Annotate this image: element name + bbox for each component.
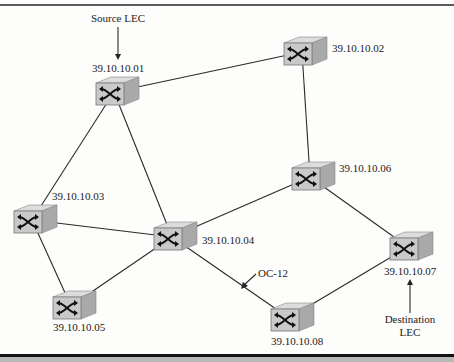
node-address-label: 39.10.10.06 — [339, 162, 392, 174]
node-address-label: 39.10.10.08 — [271, 335, 324, 347]
destination-lec-label-line1: Destination — [385, 313, 436, 325]
node-address-label: 39.10.10.03 — [52, 190, 105, 202]
switch-node-02[interactable]: 39.10.10.02 — [284, 37, 384, 65]
source-arrowhead — [115, 54, 121, 60]
destination-arrowhead — [407, 279, 413, 285]
node-address-label: 39.10.10.01 — [92, 62, 144, 74]
destination-lec-label-line2: LEC — [400, 326, 421, 338]
oc12-arrow — [244, 274, 256, 285]
network-diagram: 39.10.10.0139.10.10.0239.10.10.0339.10.1… — [0, 0, 454, 362]
switch-node-01[interactable]: 39.10.10.01 — [92, 62, 144, 105]
link-02-06 — [302, 52, 310, 177]
node-address-label: 39.10.10.04 — [202, 234, 255, 246]
switch-node-04[interactable]: 39.10.10.04 — [154, 222, 255, 250]
node-address-label: 39.10.10.02 — [332, 42, 384, 54]
switch-node-08[interactable]: 39.10.10.08 — [271, 303, 324, 347]
link-01-04 — [114, 92, 172, 237]
switch-node-07[interactable]: 39.10.10.07 — [384, 232, 437, 277]
switch-node-06[interactable]: 39.10.10.06 — [292, 162, 392, 190]
switch-node-05[interactable]: 39.10.10.05 — [53, 291, 106, 333]
oc12-label: OC-12 — [258, 267, 288, 279]
bottom-strip — [0, 357, 454, 362]
switch-node-03[interactable]: 39.10.10.03 — [14, 190, 105, 233]
source-lec-label: Source LEC — [91, 12, 145, 24]
diagram-svg: 39.10.10.0139.10.10.0239.10.10.0339.10.1… — [0, 0, 454, 362]
node-address-label: 39.10.10.05 — [53, 321, 106, 333]
node-address-label: 39.10.10.07 — [384, 265, 437, 277]
oc12-arrowhead — [241, 282, 248, 289]
